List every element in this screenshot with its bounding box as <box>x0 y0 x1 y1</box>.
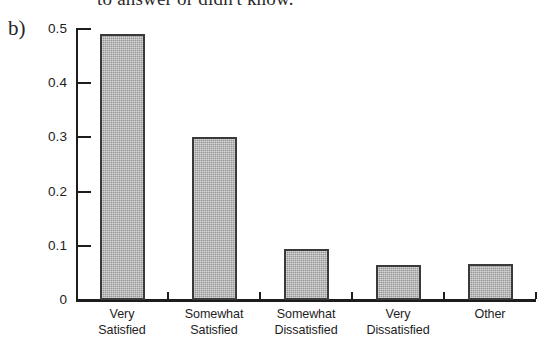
category-label-line: Dissatisfied <box>263 322 349 338</box>
category-label-line: Satisfied <box>171 322 257 338</box>
category-label-line: Somewhat <box>171 306 257 322</box>
category-label-line: Somewhat <box>263 306 349 322</box>
category-label-line: Very <box>79 306 165 322</box>
y-axis-tick <box>78 245 91 247</box>
x-axis-tick <box>443 292 445 299</box>
category-label-line: Very <box>355 306 441 322</box>
y-axis-tick <box>78 28 91 30</box>
y-axis-tick <box>78 82 91 84</box>
category-label: SomewhatDissatisfied <box>263 306 349 337</box>
category-label: VeryDissatisfied <box>355 306 441 337</box>
bar <box>468 264 513 300</box>
category-label-line: Other <box>447 306 533 322</box>
bar <box>100 34 145 300</box>
x-axis-tick <box>535 292 537 299</box>
bar <box>376 265 421 300</box>
bar <box>284 249 329 300</box>
y-axis-tick-label: 0 <box>21 292 67 307</box>
x-axis-tick <box>351 292 353 299</box>
y-axis-tick <box>78 191 91 193</box>
x-axis-tick <box>167 292 169 299</box>
category-label-line: Dissatisfied <box>355 322 441 338</box>
y-axis-tick-label: 0.5 <box>21 21 67 36</box>
y-axis-tick-label: 0.1 <box>21 238 67 253</box>
bar <box>192 137 237 300</box>
category-label-line: Satisfied <box>79 322 165 338</box>
category-label: SomewhatSatisfied <box>171 306 257 337</box>
y-axis-line <box>76 28 78 301</box>
category-label: Other <box>447 306 533 322</box>
bar-chart: 00.10.20.30.40.5 VerySatisfiedSomewhatSa… <box>0 0 541 345</box>
x-axis-tick <box>259 292 261 299</box>
category-label: VerySatisfied <box>79 306 165 337</box>
y-axis-tick <box>78 136 91 138</box>
y-axis-tick-label: 0.4 <box>21 75 67 90</box>
y-axis-tick-label: 0.2 <box>21 184 67 199</box>
y-axis-tick-label: 0.3 <box>21 129 67 144</box>
